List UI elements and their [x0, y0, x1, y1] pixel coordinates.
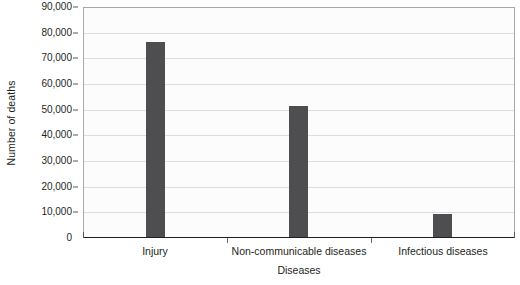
bar[interactable]: [289, 106, 308, 237]
bar[interactable]: [146, 42, 165, 237]
x-axis-category-tick: [371, 238, 372, 243]
y-axis-title: Number of deaths: [0, 0, 22, 245]
y-axis-tick-label: 70,000: [41, 53, 72, 63]
y-axis-tick-label: 30,000: [41, 156, 72, 166]
y-axis-tick-mark: [73, 161, 78, 162]
y-axis-tick-label: 20,000: [41, 182, 72, 192]
x-axis-category-ticks: [83, 238, 515, 243]
y-axis-tick-mark: [73, 186, 78, 187]
x-axis-category-tick: [227, 238, 228, 243]
y-axis-tick-label: 80,000: [41, 28, 72, 38]
y-axis-tick-label: 60,000: [41, 79, 72, 89]
y-axis-tick-label: 90,000: [41, 2, 72, 12]
y-axis-tick-mark: [73, 58, 78, 59]
y-axis-tick-mark: [73, 32, 78, 33]
x-axis-tick-label: Infectious diseases: [371, 244, 515, 262]
x-axis-title: Diseases: [83, 264, 515, 276]
bar-slot: [371, 8, 514, 237]
bar-slot: [84, 8, 227, 237]
y-axis-title-text: Number of deaths: [5, 80, 17, 165]
y-axis-tick-mark: [73, 7, 78, 8]
bars-group: [84, 8, 514, 237]
y-axis-tick-label: 40,000: [41, 130, 72, 140]
x-axis-tick-labels: InjuryNon-communicable diseasesInfectiou…: [83, 244, 515, 262]
x-axis-tick-label: Injury: [83, 244, 227, 262]
y-axis-tick-mark: [73, 135, 78, 136]
bar-slot: [227, 8, 370, 237]
y-axis-tick-mark: [73, 212, 78, 213]
x-axis-tick-label: Non-communicable diseases: [227, 244, 371, 262]
y-axis-tick-label: 50,000: [41, 105, 72, 115]
bar-chart-figure: Number of deaths 010,00020,00030,00040,0…: [0, 0, 520, 285]
y-axis-tick-mark: [73, 109, 78, 110]
plot-area: [83, 7, 515, 238]
y-axis-tick-label: 10,000: [41, 207, 72, 217]
y-axis-tick-label: 0: [66, 233, 72, 243]
y-axis-tick-labels: 010,00020,00030,00040,00050,00060,00070,…: [22, 6, 78, 243]
y-axis-tick-mark: [73, 84, 78, 85]
